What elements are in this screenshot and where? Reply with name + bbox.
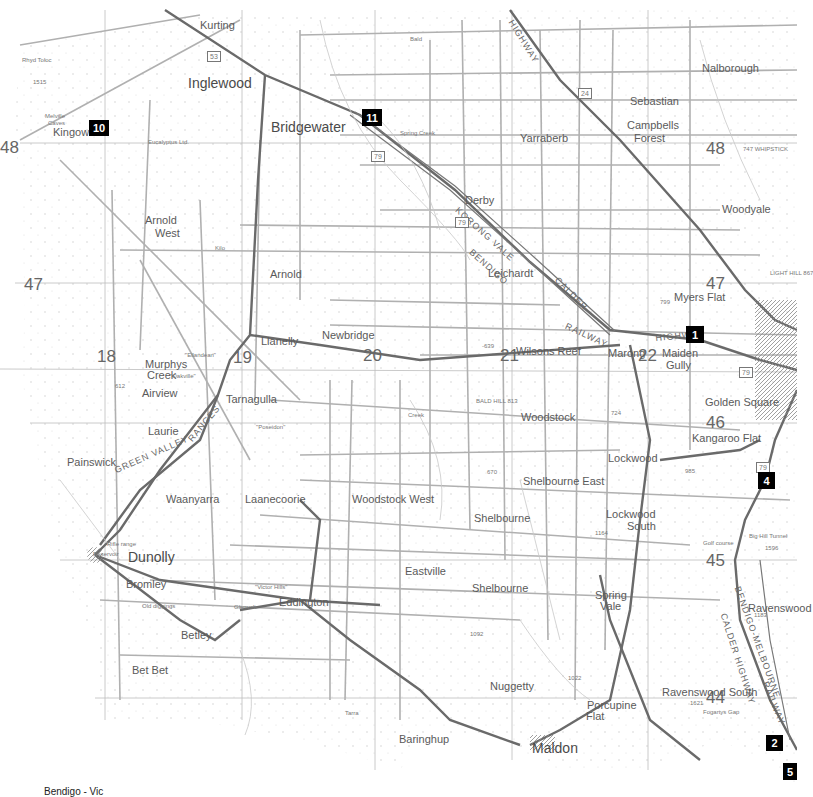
town-label: Ravenswood South: [662, 687, 757, 698]
feature-label: Glenvale: [234, 604, 258, 610]
town-label: Woodstock West: [352, 494, 434, 505]
route-shield-icon: 24: [578, 88, 592, 99]
town-label: Gully: [666, 360, 691, 371]
town-label: Derby: [465, 195, 494, 206]
town-label: Flat: [586, 711, 604, 722]
town-label: Kangaroo Flat: [692, 433, 761, 444]
feature-label: 985: [685, 468, 695, 474]
feature-label: Spring Creek: [400, 130, 435, 136]
town-label: Shelbourne: [474, 513, 530, 524]
feature-label: 799: [660, 299, 670, 305]
feature-label: Tarra: [345, 710, 359, 716]
feature-label: Fogartys Gap: [703, 709, 739, 715]
feature-label: 670: [487, 469, 497, 475]
location-marker-2[interactable]: 2: [766, 735, 783, 751]
town-label: Tarnagulla: [226, 394, 277, 405]
feature-label: 1183: [754, 612, 767, 618]
feature-label: LIGHT HILL 867: [770, 270, 813, 276]
town-label: Nalborough: [702, 63, 759, 74]
town-label: Laanecoorie: [245, 494, 306, 505]
feature-label: 612: [115, 383, 125, 389]
feature-label: 1515: [33, 79, 46, 85]
town-label: Maldon: [532, 741, 578, 755]
town-label: Painswick: [67, 457, 116, 468]
feature-label: Eucalyptus Ltd.: [148, 139, 189, 145]
grid-number: 48: [0, 139, 19, 156]
grid-number: 47: [706, 275, 725, 292]
town-label: Eastville: [405, 566, 446, 577]
feature-label: Rhyd Toloc: [22, 57, 52, 63]
town-label: West: [155, 228, 180, 239]
feature-label: "Poseidon": [256, 424, 285, 430]
location-marker-11[interactable]: 11: [362, 109, 382, 126]
location-marker-1[interactable]: 1: [686, 326, 704, 343]
feature-label: Kilo: [215, 245, 225, 251]
town-label: Eddington: [279, 597, 329, 608]
feature-label: -639: [482, 343, 494, 349]
feature-label: "Ellandean": [185, 352, 216, 358]
town-label: Arnold: [270, 269, 302, 280]
feature-label: Big Hill Tunnel: [749, 533, 787, 539]
feature-label: "Victor Hills": [255, 584, 288, 590]
route-shield-icon: 79: [371, 151, 385, 162]
town-label: Laurie: [148, 426, 179, 437]
feature-label: Old diggings: [142, 603, 175, 609]
town-label: Nuggetty: [490, 681, 534, 692]
grid-number: 45: [706, 552, 725, 569]
grid-number: 19: [233, 349, 252, 366]
feature-label: 1621: [690, 700, 703, 706]
feature-label: Golf course: [703, 540, 734, 546]
town-label: Dunolly: [128, 550, 175, 564]
town-label: Llanelly: [261, 336, 298, 347]
town-label: South: [627, 521, 656, 532]
town-label: Woodstock: [521, 412, 575, 423]
town-label: Inglewood: [188, 76, 252, 90]
feature-label: Caves: [48, 120, 65, 126]
feature-label: Creek: [408, 412, 424, 418]
location-marker-5[interactable]: 5: [783, 763, 797, 780]
feature-label: Rifle range: [107, 541, 136, 547]
town-label: Lockwood: [606, 509, 656, 520]
town-label: Vale: [600, 601, 621, 612]
feature-label: Bald: [410, 36, 422, 42]
town-label: Bromley: [126, 579, 166, 590]
map-footer-label: Bendigo - Vic: [44, 786, 103, 797]
feature-label: 1092: [470, 631, 483, 637]
town-label: Leichardt: [488, 268, 533, 279]
grid-number: 20: [363, 347, 382, 364]
town-label: Newbridge: [322, 330, 375, 341]
feature-label: "Oakville": [170, 373, 196, 379]
town-label: Betley: [181, 630, 212, 641]
grid-number: 47: [24, 276, 43, 293]
town-label: Sebastian: [630, 96, 679, 107]
feature-label: 1164: [595, 530, 608, 536]
feature-label: 724: [611, 410, 621, 416]
town-label: Campbells: [627, 120, 679, 131]
grid-number: 46: [706, 414, 725, 431]
feature-label: Reservoir: [93, 551, 119, 557]
town-label: Waanyarra: [166, 494, 219, 505]
route-shield-icon: 53: [207, 51, 221, 62]
town-label: Arnold: [145, 215, 177, 226]
town-label: Maiden: [662, 348, 698, 359]
route-shield-icon: 79: [739, 367, 753, 378]
town-label: Wilsons Reef: [516, 346, 581, 357]
location-marker-4[interactable]: 4: [758, 472, 775, 489]
grid-number: 48: [706, 140, 725, 157]
town-label: Marong: [608, 348, 645, 359]
town-label: Myers Flat: [674, 292, 725, 303]
route-shield-icon: 79: [455, 217, 469, 228]
town-label: Baringhup: [399, 734, 449, 745]
location-marker-10[interactable]: 10: [89, 120, 109, 136]
town-label: Shelbourne: [472, 583, 528, 594]
town-label: Yarraberb: [520, 133, 568, 144]
town-label: Golden Square: [705, 397, 779, 408]
town-label: Bridgewater: [271, 120, 346, 134]
town-label: Shelbourne East: [523, 476, 604, 487]
town-label: Kurting: [200, 20, 235, 31]
town-label: Bet Bet: [132, 665, 168, 676]
feature-label: BALD HILL 813: [476, 398, 517, 404]
town-label: Woodyale: [722, 204, 771, 215]
town-label: Airview: [142, 388, 177, 399]
feature-label: Melville: [45, 113, 65, 119]
